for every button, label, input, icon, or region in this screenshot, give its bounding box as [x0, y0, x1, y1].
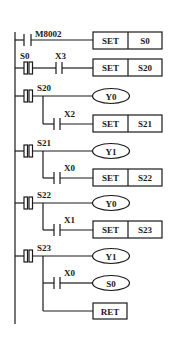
coil-label: Y1 — [106, 147, 117, 157]
stl-contact-icon — [24, 250, 33, 262]
step-label: S23 — [37, 243, 52, 253]
instruction-label: SET — [102, 225, 119, 235]
rung-3: S20 Y0 X2 SET S21 — [15, 83, 162, 132]
condition-label: X2 — [64, 109, 75, 119]
step-label: S20 — [37, 83, 52, 93]
coil-label: Y1 — [106, 252, 117, 262]
normally-open-contact-icon — [56, 62, 62, 74]
normally-open-contact-icon — [54, 224, 60, 236]
rung-2: S0 X3 SET S20 — [15, 51, 162, 76]
step-label: S0 — [20, 51, 30, 61]
instruction-label: SET — [102, 36, 119, 46]
condition-label: X3 — [55, 51, 66, 61]
normally-open-contact-icon — [24, 34, 31, 46]
instruction-label: SET — [102, 119, 119, 129]
operand-label: S22 — [138, 173, 153, 183]
coil-label: Y0 — [106, 92, 117, 102]
normally-open-contact-icon — [54, 118, 60, 130]
stl-contact-icon — [24, 62, 33, 74]
stl-contact-icon — [24, 90, 33, 102]
condition-label: X0 — [64, 268, 75, 278]
operand-label: S0 — [140, 36, 150, 46]
stl-contact-icon — [24, 197, 33, 209]
instruction-label: SET — [102, 173, 119, 183]
operand-label: S23 — [138, 225, 153, 235]
jump-coil-label: S0 — [106, 279, 116, 289]
normally-open-contact-icon — [54, 172, 60, 184]
normally-open-contact-icon — [54, 277, 60, 289]
ladder-diagram: M8002 SET S0 S0 X3 SET S20 S20 — [0, 0, 174, 345]
rung-4: S21 Y1 X0 SET S22 — [15, 138, 162, 186]
rung-5: S22 Y0 X1 SET S23 — [15, 190, 162, 238]
ret-label: RET — [101, 307, 120, 317]
step-label: S21 — [37, 138, 52, 148]
rung-6: S23 Y1 X0 S0 RET — [15, 243, 130, 319]
operand-label: S20 — [138, 63, 153, 73]
coil-label: Y0 — [106, 199, 117, 209]
step-label: S22 — [37, 190, 52, 200]
stl-contact-icon — [24, 145, 33, 157]
condition-label: X0 — [64, 163, 75, 173]
contact-label: M8002 — [35, 29, 62, 39]
condition-label: X1 — [64, 215, 75, 225]
operand-label: S21 — [138, 119, 153, 129]
instruction-label: SET — [102, 63, 119, 73]
rung-1: M8002 SET S0 — [15, 29, 162, 49]
